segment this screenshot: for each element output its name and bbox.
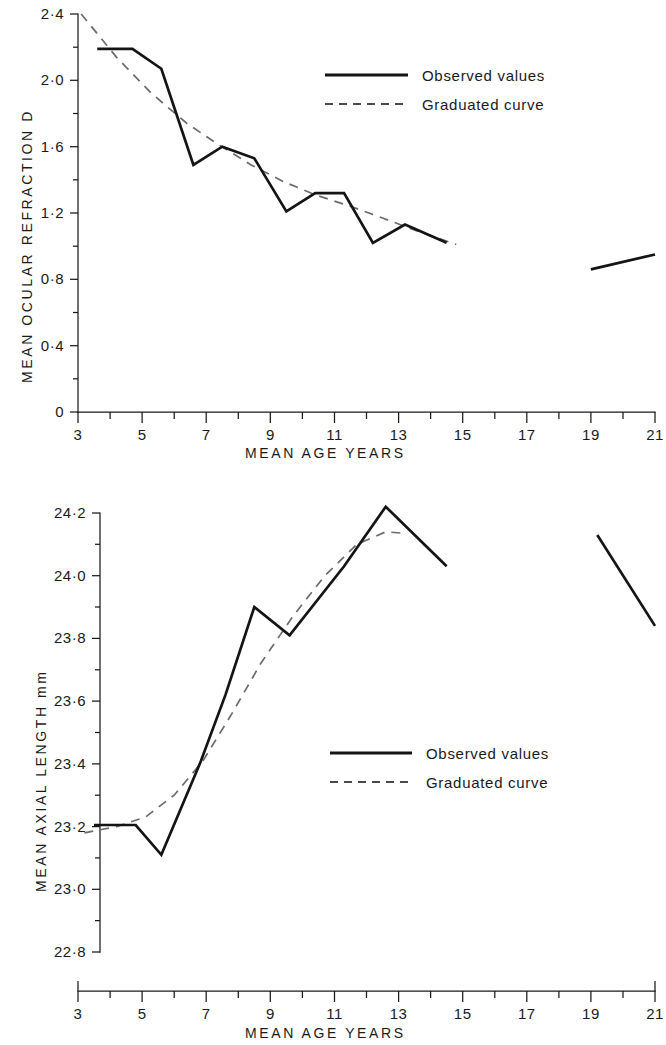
chart-mean-axial-length: MEAN AXIAL LENGTH mm 22·8 23·0 23·2 23 [0, 460, 666, 1045]
series-graduated-curve-bottom [84, 532, 405, 833]
y-tick-label-bottom-1: 23·0 [54, 880, 86, 897]
y-tick-label-bottom-0: 22·8 [54, 943, 86, 960]
y-tick-label-top-6: 2·4 [41, 5, 64, 22]
y-tick-label-top-4: 1·6 [41, 138, 64, 155]
figure-container: MEAN OCULAR REFRACTION D 0 0·4 0·8 1·2 [0, 0, 666, 1045]
y-tick-label-top-5: 2·0 [41, 71, 64, 88]
x-tick-label-top-15: 15 [454, 426, 472, 443]
y-axis-title-text-top: MEAN OCULAR REFRACTION D [19, 109, 35, 383]
y-tick-label-top-0: 0 [55, 403, 64, 420]
y-tick-label-bottom-5: 23·8 [54, 629, 86, 646]
x-ticks-bottom: 3 5 7 9 11 13 15 17 19 21 [74, 991, 664, 1022]
chart-mean-ocular-refraction: MEAN OCULAR REFRACTION D 0 0·4 0·8 1·2 [0, 0, 666, 460]
x-tick-label-bottom-21: 21 [646, 1005, 664, 1022]
x-tick-label-top-21: 21 [646, 426, 664, 443]
series-graduated-curve-top [81, 14, 456, 245]
x-ticks-top: 3 5 7 9 11 13 15 17 19 21 [74, 412, 664, 443]
x-tick-label-bottom-9: 9 [266, 1005, 275, 1022]
legend-label-graduated-top: Graduated curve [422, 96, 544, 113]
x-tick-label-bottom-15: 15 [454, 1005, 472, 1022]
series-observed-values-bottom [94, 507, 655, 855]
x-tick-label-bottom-19: 19 [582, 1005, 600, 1022]
y-tick-label-top-2: 0·8 [41, 270, 64, 287]
x-tick-label-top-11: 11 [326, 426, 343, 443]
legend-label-observed-top: Observed values [422, 67, 545, 84]
x-tick-label-top-7: 7 [202, 426, 211, 443]
y-axis-title-top: MEAN OCULAR REFRACTION D [19, 109, 35, 383]
x-tick-label-top-9: 9 [266, 426, 275, 443]
y-tick-label-top-3: 1·2 [41, 204, 64, 221]
x-tick-label-bottom-7: 7 [202, 1005, 211, 1022]
y-tick-label-bottom-7: 24·2 [54, 504, 86, 521]
y-axis-title-bottom: MEAN AXIAL LENGTH mm [33, 669, 49, 892]
x-tick-label-bottom-17: 17 [518, 1005, 536, 1022]
x-tick-label-top-13: 13 [390, 426, 408, 443]
y-ticks-bottom: 22·8 23·0 23·2 23·4 23·6 23·8 24·0 24·2 [54, 504, 100, 960]
x-tick-label-bottom-3: 3 [74, 1005, 83, 1022]
y-tick-label-bottom-3: 23·4 [54, 755, 86, 772]
x-axis-bottom [78, 981, 655, 991]
y-axis-title-text-bottom: MEAN AXIAL LENGTH mm [33, 669, 49, 892]
y-tick-label-bottom-2: 23·2 [54, 818, 86, 835]
y-tick-label-bottom-4: 23·6 [54, 692, 86, 709]
x-tick-label-bottom-5: 5 [138, 1005, 147, 1022]
y-ticks-top: 0 0·4 0·8 1·2 1·6 2·0 2·4 [41, 5, 78, 420]
x-tick-label-top-5: 5 [138, 426, 147, 443]
x-tick-label-bottom-13: 13 [390, 1005, 408, 1022]
x-tick-label-top-3: 3 [74, 426, 83, 443]
x-axis-title-top: MEAN AGE YEARS [245, 445, 406, 460]
x-axis-title-bottom: MEAN AGE YEARS [245, 1025, 406, 1041]
y-tick-label-top-1: 0·4 [41, 337, 64, 354]
legend-label-graduated-bottom: Graduated curve [426, 774, 548, 791]
x-tick-label-bottom-11: 11 [326, 1005, 343, 1022]
x-tick-label-top-17: 17 [518, 426, 536, 443]
x-tick-label-top-19: 19 [582, 426, 600, 443]
legend-bottom: Observed values Graduated curve [330, 745, 549, 791]
series-observed-values-top [97, 49, 655, 270]
y-tick-label-bottom-6: 24·0 [54, 567, 86, 584]
legend-label-observed-bottom: Observed values [426, 745, 549, 762]
legend-top: Observed values Graduated curve [325, 67, 545, 113]
